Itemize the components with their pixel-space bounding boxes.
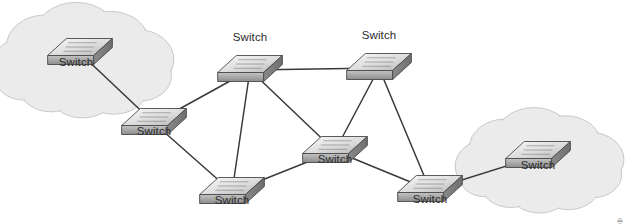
switch-icon: [398, 176, 463, 202]
switch-icon: [122, 109, 187, 135]
switch-icon: [303, 137, 368, 163]
diagram-svg: [0, 0, 627, 224]
copyright-notice: © 2016 Cengage Learning®: [616, 218, 625, 224]
network-link: [232, 70, 250, 192]
clouds-layer: [0, 2, 624, 213]
switch-icon: [218, 56, 283, 82]
switch-icon: [347, 54, 412, 80]
network-diagram-canvas: SwitchSwitchSwitchSwitchSwitchSwitchSwit…: [0, 0, 627, 224]
switch-icon: [200, 178, 265, 204]
